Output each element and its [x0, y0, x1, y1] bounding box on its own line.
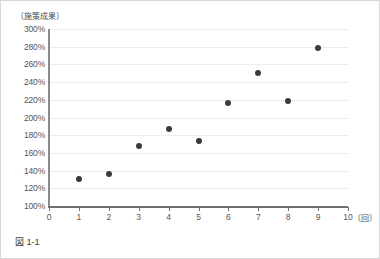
x-tick-mark-7	[258, 207, 259, 211]
data-point	[196, 138, 202, 144]
x-tick-mark-5	[199, 207, 200, 211]
gridline-y-280	[49, 47, 348, 48]
y-tick-label-280: 280%	[24, 42, 45, 52]
x-tick-mark-4	[169, 207, 170, 211]
x-tick-label-5: 5	[196, 212, 201, 222]
gridline-y-180	[49, 135, 348, 136]
y-tick-label-180: 180%	[24, 130, 45, 140]
x-tick-label-7: 7	[256, 212, 261, 222]
y-axis-tick-labels: 100%120%140%160%180%200%220%240%260%280%…	[1, 29, 45, 206]
x-tick-mark-9	[318, 207, 319, 211]
y-tick-label-240: 240%	[24, 77, 45, 87]
x-axis-tick-labels: 012345678910	[49, 207, 348, 227]
data-point	[166, 126, 172, 132]
gridline-y-300	[49, 29, 348, 30]
gridline-y-220	[49, 100, 348, 101]
x-tick-mark-0	[49, 207, 50, 211]
y-tick-label-100: 100%	[24, 201, 45, 211]
x-tick-label-0: 0	[47, 212, 52, 222]
gridline-y-160	[49, 153, 348, 154]
y-tick-label-200: 200%	[24, 113, 45, 123]
data-point	[315, 45, 321, 51]
gridline-y-260	[49, 64, 348, 65]
data-point	[285, 98, 291, 104]
data-point	[255, 70, 261, 76]
gridline-y-120	[49, 188, 348, 189]
x-tick-mark-10	[348, 207, 349, 211]
y-tick-label-120: 120%	[24, 183, 45, 193]
x-tick-label-2: 2	[106, 212, 111, 222]
x-axis-unit-label: 〔回〕	[353, 212, 377, 223]
data-point	[136, 143, 142, 149]
figure-container: 〔施策成果〕 100%120%140%160%180%200%220%240%2…	[0, 0, 380, 259]
x-tick-label-9: 9	[316, 212, 321, 222]
data-point	[76, 176, 82, 182]
x-tick-label-1: 1	[77, 212, 82, 222]
plot-area	[49, 29, 348, 206]
gridline-y-200	[49, 118, 348, 119]
data-point	[225, 100, 231, 106]
x-tick-label-6: 6	[226, 212, 231, 222]
y-tick-label-260: 260%	[24, 59, 45, 69]
figure-caption: 図 1-1	[15, 235, 40, 248]
x-tick-mark-2	[109, 207, 110, 211]
x-tick-label-3: 3	[136, 212, 141, 222]
x-tick-mark-1	[79, 207, 80, 211]
x-tick-label-10: 10	[343, 212, 352, 222]
y-tick-label-140: 140%	[24, 166, 45, 176]
y-axis-line	[48, 29, 50, 207]
y-tick-label-220: 220%	[24, 95, 45, 105]
gridline-y-240	[49, 82, 348, 83]
x-tick-mark-8	[288, 207, 289, 211]
y-tick-label-300: 300%	[24, 24, 45, 34]
x-tick-label-8: 8	[286, 212, 291, 222]
x-tick-mark-6	[228, 207, 229, 211]
x-tick-label-4: 4	[166, 212, 171, 222]
y-axis-unit-label: 〔施策成果〕	[16, 10, 64, 21]
y-tick-label-160: 160%	[24, 148, 45, 158]
data-point	[106, 171, 112, 177]
gridline-y-140	[49, 171, 348, 172]
x-tick-mark-3	[139, 207, 140, 211]
